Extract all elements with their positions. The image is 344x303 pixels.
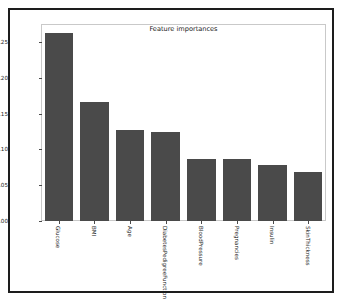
x-axis-tick-mark xyxy=(130,221,131,224)
x-axis-tick-label: Age xyxy=(127,226,133,237)
y-axis-tick-label: 0.25 xyxy=(0,39,8,45)
x-axis-tick-label: BloodPressure xyxy=(198,226,204,266)
bar xyxy=(258,165,287,221)
x-axis-tick-mark xyxy=(166,221,167,224)
x-axis-tick-label: SkinThickness xyxy=(305,226,311,266)
x-axis-tick-mark xyxy=(273,221,274,224)
y-axis-tick-label: 0.15 xyxy=(0,111,8,117)
figure-frame: Feature importances 0.000.050.100.150.20… xyxy=(8,8,334,293)
x-axis-tick-label: BMI xyxy=(91,226,97,236)
y-axis-tick-label: 0.00 xyxy=(0,218,8,224)
y-axis-tick-label: 0.20 xyxy=(0,75,8,81)
bar xyxy=(151,132,180,221)
x-axis-tick-label: Insulin xyxy=(269,226,275,244)
bar-series xyxy=(10,10,332,291)
bar xyxy=(80,102,109,221)
x-axis-tick-mark xyxy=(237,221,238,224)
y-axis-tick-label: 0.05 xyxy=(0,182,8,188)
bar xyxy=(294,172,323,221)
bar xyxy=(187,159,216,221)
x-axis-tick-mark xyxy=(201,221,202,224)
x-axis-tick-mark xyxy=(308,221,309,224)
x-axis-tick-label: Pregnancies xyxy=(234,226,240,260)
x-axis-tick-label: Glucose xyxy=(55,226,61,248)
bar xyxy=(223,159,252,221)
y-axis-tick-label: 0.10 xyxy=(0,146,8,152)
bar xyxy=(45,33,74,221)
x-axis-tick-mark xyxy=(59,221,60,224)
x-axis-tick-mark xyxy=(94,221,95,224)
bar xyxy=(116,130,145,221)
x-axis-tick-label: DiabetesPedigreeFunction xyxy=(162,226,168,299)
